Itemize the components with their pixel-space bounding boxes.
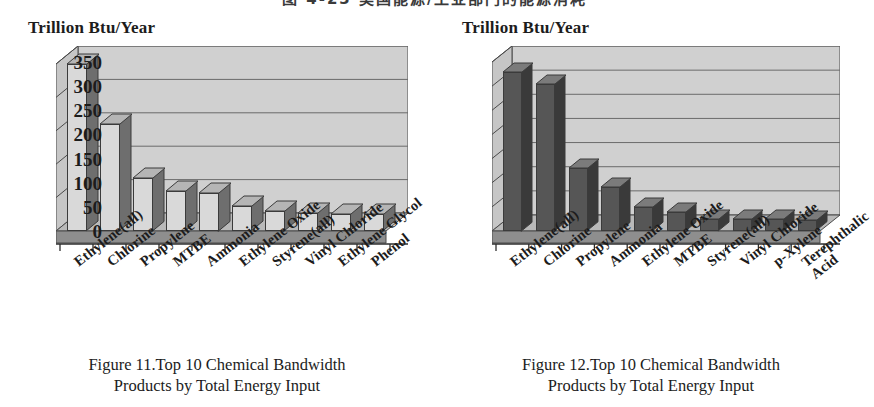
figure-caption: Figure 12.Top 10 Chemical Bandwidth Prod… xyxy=(434,354,868,396)
figure-caption: Figure 11.Top 10 Chemical Bandwidth Prod… xyxy=(0,354,434,396)
bar-side-face xyxy=(554,75,567,233)
y-tick-label: 50 xyxy=(83,197,102,216)
caption-line-1: Figure 11.Top 10 Chemical Bandwidth xyxy=(0,354,434,375)
bar xyxy=(536,84,555,231)
bar xyxy=(503,72,522,231)
bar xyxy=(100,124,120,231)
y-axis-title: Trillion Btu/Year xyxy=(462,18,589,38)
bar-front-face xyxy=(100,124,120,231)
caption-line-1: Figure 12.Top 10 Chemical Bandwidth xyxy=(434,354,868,375)
figure-12: Trillion Btu/Year 050100150200250300350 … xyxy=(434,18,868,407)
y-axis-title: Trillion Btu/Year xyxy=(28,18,155,38)
bar-front-face xyxy=(503,72,522,231)
bar-front-face xyxy=(199,193,219,231)
y-tick-label: 0 xyxy=(93,222,103,241)
figure-11: Trillion Btu/Year 0100200300400500 Ethyl… xyxy=(0,18,434,407)
y-tick-labels: 050100150200250300350 xyxy=(434,42,486,255)
y-tick-labels: 0100200300400500 xyxy=(0,42,52,257)
caption-line-2: Products by Total Energy Input xyxy=(0,375,434,396)
y-tick-label: 100 xyxy=(74,173,103,192)
x-axis-labels: Ethylene(all)ChlorinePropyleneAmmoniaEth… xyxy=(434,243,868,343)
y-tick-label: 350 xyxy=(74,53,103,72)
y-tick-label: 250 xyxy=(74,101,103,120)
bar xyxy=(199,193,219,231)
caption-line-2: Products by Total Energy Input xyxy=(434,375,868,396)
bar-front-face xyxy=(536,84,555,231)
y-tick-label: 300 xyxy=(74,77,103,96)
y-tick-label: 200 xyxy=(74,125,103,144)
bar-side-face xyxy=(521,63,534,233)
clipped-headline-text: 图 4-23 美国能源/工业部门的能源消耗 xyxy=(282,0,587,8)
bar-side-face xyxy=(587,159,600,233)
x-axis-labels: Ethylene(all)ChlorinePropyleneMTBEAmmoni… xyxy=(0,243,434,343)
y-tick-label: 150 xyxy=(74,149,103,168)
clipped-headline: 图 4-23 美国能源/工业部门的能源消耗 xyxy=(0,0,868,9)
